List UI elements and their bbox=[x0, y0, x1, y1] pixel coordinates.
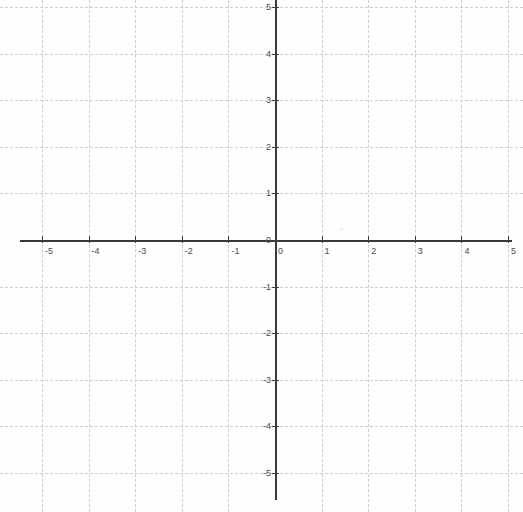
tick-label-y: 4 bbox=[253, 49, 271, 59]
tick-label-y: -3 bbox=[253, 375, 271, 385]
tick-label-y: -4 bbox=[253, 421, 271, 431]
tick-label-y: -5 bbox=[253, 468, 271, 478]
tick-label-x: -4 bbox=[92, 246, 100, 256]
stray-mark bbox=[340, 228, 343, 230]
tick-label-y: 2 bbox=[253, 142, 271, 152]
tick-label-y: 5 bbox=[253, 2, 271, 12]
coordinate-plane[interactable]: -5-4-3-2-1012345-5-4-3-2-1012345 bbox=[0, 0, 523, 512]
tick-label-y: -1 bbox=[253, 282, 271, 292]
tick-label-layer: -5-4-3-2-1012345-5-4-3-2-1012345 bbox=[0, 0, 523, 512]
tick-label-y: 0 bbox=[253, 235, 271, 245]
tick-label-x: -2 bbox=[185, 246, 193, 256]
tick-label-x: 2 bbox=[371, 246, 376, 256]
tick-label-x: -5 bbox=[45, 246, 53, 256]
tick-label-x: -1 bbox=[231, 246, 239, 256]
tick-label-x: 4 bbox=[464, 246, 469, 256]
tick-label-x: 5 bbox=[511, 246, 516, 256]
tick-label-y: 3 bbox=[253, 95, 271, 105]
tick-label-x: 0 bbox=[278, 246, 283, 256]
tick-label-x: 1 bbox=[325, 246, 330, 256]
tick-label-y: -2 bbox=[253, 328, 271, 338]
tick-label-x: 3 bbox=[418, 246, 423, 256]
tick-label-y: 1 bbox=[253, 188, 271, 198]
tick-label-x: -3 bbox=[138, 246, 146, 256]
